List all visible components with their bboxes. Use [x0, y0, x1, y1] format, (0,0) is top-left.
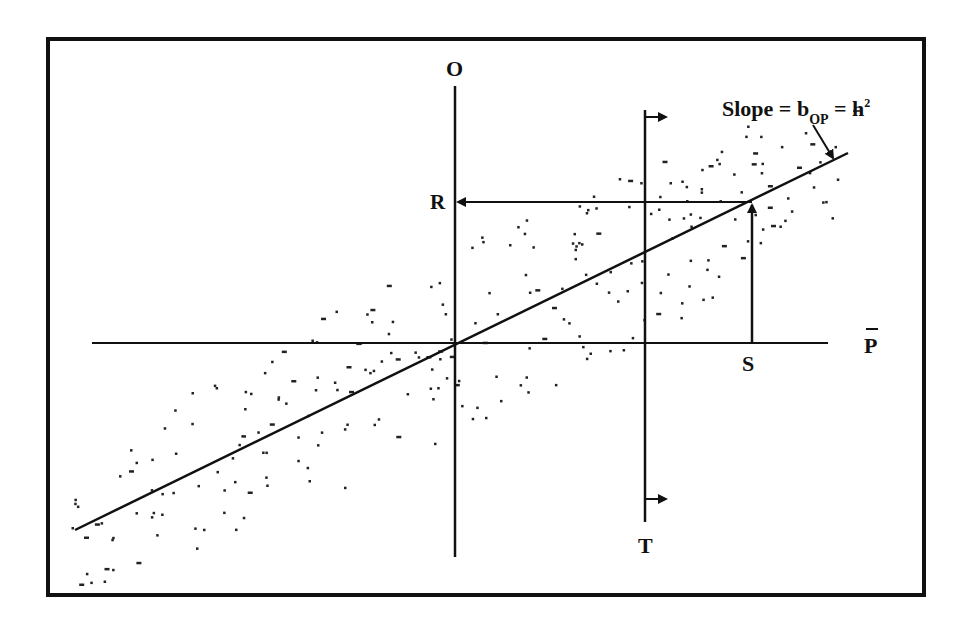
data-point — [471, 247, 474, 250]
data-point — [285, 402, 288, 405]
data-point — [590, 353, 593, 356]
data-point — [336, 389, 339, 392]
data-point — [458, 380, 461, 383]
data-point — [524, 233, 527, 236]
data-point — [659, 196, 662, 199]
data-point — [374, 424, 377, 427]
data-point — [192, 392, 195, 395]
data-point — [430, 388, 433, 391]
data-point — [381, 360, 384, 363]
midparent-axis-letter: P — [864, 333, 877, 358]
data-point — [706, 269, 709, 272]
data-point — [485, 417, 488, 420]
data-point — [311, 340, 314, 343]
data-point — [371, 321, 374, 324]
data-point — [407, 393, 410, 396]
offspring-axis-label: O — [446, 56, 463, 81]
data-point — [575, 249, 578, 252]
data-point — [702, 299, 705, 302]
data-point — [74, 499, 77, 502]
data-point — [608, 291, 611, 294]
data-point — [707, 259, 710, 262]
data-point — [822, 201, 825, 204]
data-point — [784, 220, 787, 223]
data-point — [712, 296, 715, 299]
data-point — [835, 146, 838, 149]
data-point — [797, 167, 802, 170]
data-point — [619, 178, 622, 181]
data-point — [161, 493, 164, 496]
data-point — [699, 217, 702, 220]
data-point — [450, 338, 453, 341]
data-point — [656, 313, 661, 316]
data-point — [528, 347, 531, 350]
data-point — [617, 300, 620, 303]
data-point — [575, 245, 578, 248]
svg-text:Slope = bOP = h2: Slope = bOP = h2 — [722, 96, 870, 127]
data-point — [474, 322, 477, 325]
data-point — [214, 385, 217, 388]
truncation-point-label: T — [638, 533, 653, 558]
data-point — [72, 527, 75, 530]
data-point — [235, 529, 238, 532]
data-point — [161, 514, 164, 517]
slope-mid: = h — [829, 96, 865, 121]
data-point — [542, 338, 547, 341]
data-point — [432, 398, 435, 401]
data-point — [291, 380, 296, 383]
data-point — [760, 242, 763, 245]
data-point — [418, 356, 421, 359]
data-point — [370, 309, 375, 312]
data-point — [265, 476, 268, 479]
data-point — [196, 547, 199, 550]
data-point — [527, 391, 530, 394]
data-point — [104, 581, 107, 584]
data-point — [461, 405, 464, 408]
data-point — [641, 282, 644, 285]
data-point — [610, 271, 613, 274]
data-point — [628, 180, 633, 183]
data-point — [595, 207, 598, 210]
data-point — [112, 537, 115, 540]
data-point — [241, 435, 244, 438]
slope-superscript: 2 — [864, 96, 870, 110]
data-point — [282, 351, 287, 354]
data-point — [582, 346, 585, 349]
data-point — [632, 337, 635, 340]
data-point — [741, 191, 744, 194]
data-point — [690, 260, 693, 263]
regression-diagram: O R S T P Slope = bOP = h2 — [0, 0, 974, 630]
data-point — [628, 206, 631, 209]
data-point — [813, 186, 816, 189]
data-point — [431, 368, 434, 371]
data-point — [344, 428, 347, 431]
data-point — [307, 467, 310, 470]
data-point — [476, 407, 479, 410]
data-point — [733, 173, 736, 176]
data-point — [414, 351, 417, 354]
data-point — [430, 286, 433, 289]
data-point — [741, 257, 746, 260]
data-point — [585, 274, 588, 277]
data-point — [112, 569, 115, 572]
data-point — [745, 136, 748, 139]
data-point — [650, 213, 653, 216]
data-point — [771, 225, 776, 228]
data-point — [101, 522, 104, 525]
data-point — [434, 443, 437, 446]
data-point — [701, 188, 704, 191]
data-point — [680, 317, 683, 320]
data-point — [156, 534, 159, 537]
data-point — [641, 260, 644, 263]
data-point — [191, 423, 194, 426]
data-point — [271, 361, 274, 364]
data-point — [688, 285, 691, 288]
data-point — [317, 444, 320, 447]
data-point — [90, 582, 93, 585]
data-point — [297, 460, 300, 463]
data-point — [755, 214, 758, 217]
data-point — [810, 143, 815, 146]
data-point — [105, 568, 110, 571]
data-point — [151, 459, 154, 462]
data-point — [630, 262, 633, 265]
